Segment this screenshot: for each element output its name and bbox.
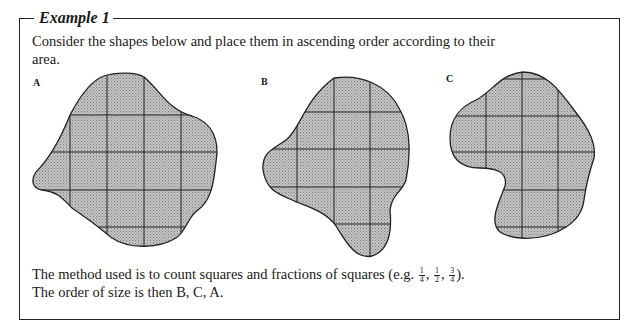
fraction-three-quarters: 34 (449, 267, 455, 284)
conclusion-text: The order of size is then B, C, A. (32, 284, 465, 301)
fraction-half: 12 (434, 267, 440, 284)
explanation: The method used is to count squares and … (32, 266, 465, 301)
method-text: The method used is to count squares and … (32, 266, 465, 284)
fraction-quarter: 14 (419, 267, 425, 284)
